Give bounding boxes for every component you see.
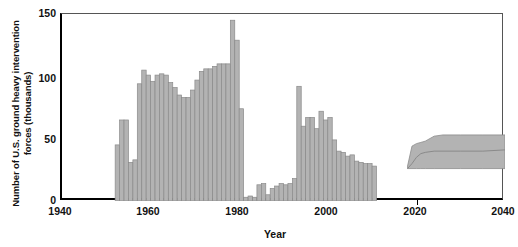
bar <box>177 95 181 201</box>
bar <box>128 162 132 201</box>
bar <box>261 184 265 201</box>
bar <box>337 151 341 201</box>
y-tick-label-150: 150 <box>22 7 56 19</box>
bar <box>279 184 283 201</box>
bar <box>199 71 203 201</box>
x-tick-label-2020: 2020 <box>393 205 437 217</box>
x-tick-label-2040: 2040 <box>481 205 518 217</box>
bar <box>288 184 292 201</box>
bar <box>208 69 212 201</box>
bar <box>363 164 367 201</box>
bar <box>244 197 248 201</box>
bar <box>115 145 119 201</box>
bar <box>284 185 288 201</box>
bar <box>350 155 354 201</box>
bar <box>168 83 172 201</box>
bar <box>372 166 376 201</box>
chart-canvas <box>62 14 505 201</box>
bar <box>257 185 261 201</box>
x-tick-label-2000: 2000 <box>304 205 348 217</box>
bar <box>368 164 372 201</box>
bar <box>133 160 137 201</box>
bar <box>266 195 270 201</box>
bar <box>186 98 190 201</box>
bar <box>226 64 230 201</box>
bar <box>173 88 177 201</box>
bar <box>142 70 146 201</box>
bar <box>164 75 168 201</box>
plot-area <box>60 13 503 200</box>
bar <box>195 80 199 201</box>
bar <box>159 74 163 201</box>
x-tick-label-1940: 1940 <box>38 205 82 217</box>
y-tick-label-100: 100 <box>22 72 56 84</box>
x-axis-label-text: Year <box>264 228 286 240</box>
bar <box>346 156 350 201</box>
x-tick-label-1960: 1960 <box>126 205 170 217</box>
bar <box>151 81 155 201</box>
projection-band <box>408 135 505 169</box>
bar <box>270 189 274 201</box>
bar <box>239 109 243 201</box>
bar <box>235 40 239 201</box>
bar <box>292 179 296 201</box>
bar <box>297 86 301 201</box>
bar <box>213 66 217 201</box>
bar <box>319 111 323 201</box>
y-axis-label: Number of U.S. ground heavy intervention… <box>10 19 33 209</box>
bar <box>306 117 310 201</box>
bar <box>204 69 208 201</box>
bar <box>221 64 225 201</box>
bar <box>354 161 358 201</box>
x-axis-label: Year <box>0 228 518 240</box>
chart-figure: Number of U.S. ground heavy intervention… <box>0 0 518 247</box>
bar <box>332 140 336 201</box>
bar <box>217 64 221 201</box>
bar <box>248 196 252 201</box>
bar <box>328 117 332 201</box>
bar <box>315 129 319 201</box>
bar <box>310 117 314 201</box>
bar <box>124 120 128 201</box>
bar <box>137 84 141 201</box>
bar <box>359 162 363 201</box>
bar <box>120 120 124 201</box>
bar <box>323 120 327 201</box>
bar <box>252 197 256 201</box>
bar <box>146 75 150 201</box>
x-tick-label-1980: 1980 <box>215 205 259 217</box>
bar <box>155 75 159 201</box>
bar <box>182 98 186 201</box>
bar <box>190 90 194 201</box>
y-tick-label-50: 50 <box>22 133 56 145</box>
bar <box>230 20 234 201</box>
bar <box>275 186 279 201</box>
bar <box>301 126 305 201</box>
bar <box>341 152 345 201</box>
